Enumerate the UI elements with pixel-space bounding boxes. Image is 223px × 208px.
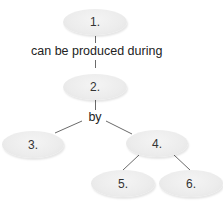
concept-node-4: 4. <box>126 130 188 157</box>
concept-node-5: 5. <box>91 170 155 197</box>
concept-node-6: 6. <box>159 170 223 197</box>
node-6-label: 6. <box>186 177 196 191</box>
connector-by-4 <box>106 121 132 134</box>
concept-map: 1. can be produced during 2. by 3. 4. 5.… <box>0 0 223 208</box>
connector-4-6 <box>174 155 190 170</box>
link-label-can-be-produced-during: can be produced during <box>31 44 161 58</box>
concept-node-1: 1. <box>63 9 127 35</box>
node-5-label: 5. <box>118 177 128 191</box>
concept-node-3: 3. <box>2 131 64 158</box>
connector-by-3 <box>55 121 82 133</box>
node-3-label: 3. <box>28 138 38 152</box>
node-4-label: 4. <box>152 137 162 151</box>
link-label-by: by <box>83 110 107 124</box>
connector-4-5 <box>123 155 139 170</box>
concept-node-2: 2. <box>63 74 127 100</box>
node-1-label: 1. <box>90 15 100 29</box>
node-2-label: 2. <box>90 80 100 94</box>
